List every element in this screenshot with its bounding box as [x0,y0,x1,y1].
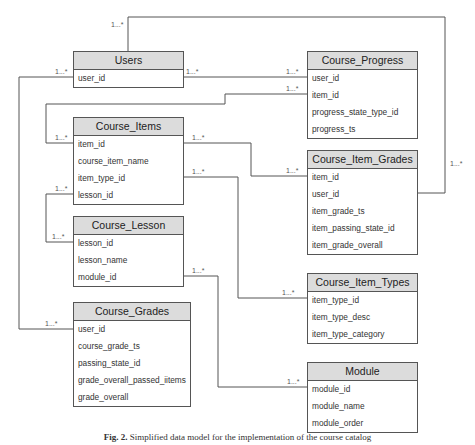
entity-field: progress_ts [308,121,417,138]
entity-field: item_type_category [308,326,417,343]
entity-module: Module module_id module_name module_orde… [307,362,418,433]
cardinality-label: 1...* [192,134,204,141]
entity-field: grade_overall_passed_iitems [74,372,190,389]
entity-field: lesson_id [74,235,183,252]
cardinality-label: 1...* [52,233,64,240]
entity-field: item_id [74,136,183,153]
entity-field: item_passing_state_id [308,220,417,237]
entity-title: Users [74,52,183,70]
cardinality-label: 1...* [286,85,298,92]
cardinality-label: 1...* [287,378,299,385]
entity-field: user_id [74,70,183,87]
cardinality-label: 1...* [282,289,294,296]
entity-field: lesson_id [74,187,183,204]
entity-field: progress_state_type_id [308,104,417,121]
cardinality-label: 1...* [45,320,57,327]
entity-title: Course_Lesson [74,217,183,235]
figure-caption: Fig. 2. Simplified data model for the im… [0,432,475,442]
caption-text: Simplified data model for the implementa… [130,432,372,442]
entity-field: item_type_desc [308,309,417,326]
entity-users: Users user_id [73,51,184,88]
cardinality-label: 1...* [55,68,67,75]
cardinality-label: 1...* [286,68,298,75]
entity-field: item_type_id [74,170,183,187]
entity-field: course_grade_ts [74,338,190,355]
entity-field: module_name [308,398,417,415]
entity-field: user_id [74,321,190,338]
caption-prefix: Fig. 2. [104,432,128,442]
entity-field: item_id [308,87,417,104]
entity-field: module_id [74,269,183,286]
entity-title: Course_Progress [308,52,417,70]
entity-field: module_id [308,381,417,398]
entity-field: item_grade_overall [308,237,417,254]
entity-field: module_order [308,415,417,432]
cardinality-label: 1...* [192,267,204,274]
entity-title: Course_Items [74,118,183,136]
entity-title: Course_Item_Types [308,274,417,292]
entity-course-item-grades: Course_Item_Grades item_id user_id item_… [307,150,418,255]
entity-field: item_type_id [308,292,417,309]
entity-course-grades: Course_Grades user_id course_grade_ts pa… [73,302,191,407]
entity-title: Course_Item_Grades [308,151,417,169]
entity-field: grade_overall [74,389,190,406]
cardinality-label: 1...* [192,168,204,175]
entity-field: course_item_name [74,153,183,170]
cardinality-label: 1...* [111,21,123,28]
entity-field: user_id [308,70,417,87]
entity-course-lesson: Course_Lesson lesson_id lesson_name modu… [73,216,184,287]
entity-field: lesson_name [74,252,183,269]
cardinality-label: 1...* [55,134,67,141]
entity-field: item_id [308,169,417,186]
entity-course-progress: Course_Progress user_id item_id progress… [307,51,418,139]
entity-field: passing_state_id [74,355,190,372]
entity-field: user_id [308,186,417,203]
line-items-to-item-types [183,177,307,298]
entity-title: Module [308,363,417,381]
entity-title: Course_Grades [74,303,190,321]
entity-course-items: Course_Items item_id course_item_name it… [73,117,184,205]
cardinality-label: 1...* [450,160,462,167]
cardinality-label: 1...* [55,185,67,192]
entity-course-item-types: Course_Item_Types item_type_id item_type… [307,273,418,344]
cardinality-label: 1...* [286,167,298,174]
cardinality-label: 1...* [186,68,198,75]
entity-field: item_grade_ts [308,203,417,220]
